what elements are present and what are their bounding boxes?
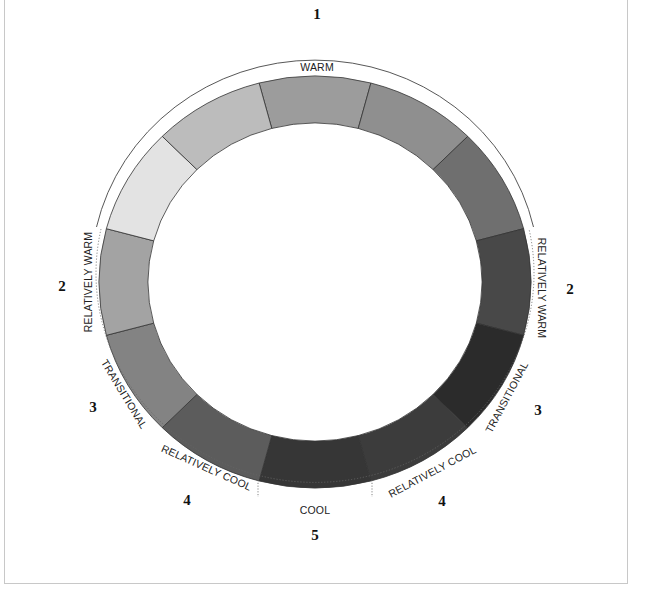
wheel-segment [476, 229, 531, 336]
zone-number-2-right: 2 [566, 281, 574, 297]
zone-number-3-left: 3 [89, 399, 97, 415]
zone-number-2-left: 2 [58, 278, 66, 294]
zone-number-5: 5 [311, 527, 319, 543]
wheel-segment [259, 76, 371, 128]
zone-label-relatively-warm-right: RELATIVELY WARM [536, 238, 548, 339]
zone-number-1: 1 [313, 6, 321, 22]
zone-number-3-right: 3 [534, 402, 542, 418]
wheel-segment [259, 436, 371, 488]
wheel-segments [99, 76, 531, 488]
zone-number-4-left: 4 [183, 492, 191, 508]
zone-label-relatively-warm-left: RELATIVELY WARM [82, 232, 94, 333]
color-wheel-diagram: WARM 1 RELATIVELY WARM 2 RELATIVELY WARM… [0, 0, 645, 590]
zone-label-warm: WARM [300, 61, 334, 73]
zone-label-cool: COOL [300, 504, 331, 516]
wheel-segment [99, 229, 154, 336]
zone-number-4-right: 4 [438, 493, 446, 509]
